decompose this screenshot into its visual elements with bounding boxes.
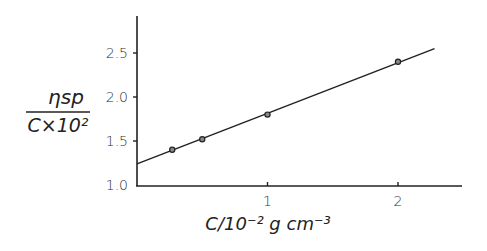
x-axis-label: C/10⁻² g cm⁻³ [205,213,330,234]
y-label-denominator: C×10² [28,114,89,136]
chart: 1.01.52.02.5 12 ηsp C×10² C/10⁻² g cm⁻³ [0,0,487,251]
plot-series [137,49,435,164]
y-axis-label: ηsp C×10² [26,85,90,136]
fit-line [137,49,435,164]
x-tick-label: 1 [263,193,272,209]
y-label-numerator: ηsp [48,85,84,109]
y-tick-label: 1.0 [106,177,128,193]
data-point [265,112,270,117]
y-tick-label: 2.5 [106,45,128,61]
y-tick-label: 2.0 [106,89,128,105]
y-tick-label: 1.5 [106,133,128,149]
y-ticks: 1.01.52.02.5 [106,45,137,193]
x-tick-label: 2 [394,193,403,209]
data-point [200,137,205,142]
data-point [170,147,175,152]
data-point [395,59,400,64]
